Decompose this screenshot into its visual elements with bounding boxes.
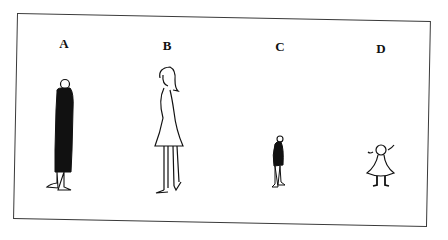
figure-c-short-figure-icon	[272, 136, 285, 187]
figure-b-woman-icon	[155, 67, 183, 193]
figure-d-girl-icon	[367, 145, 394, 186]
figure-a-tall-man-icon	[47, 80, 73, 191]
